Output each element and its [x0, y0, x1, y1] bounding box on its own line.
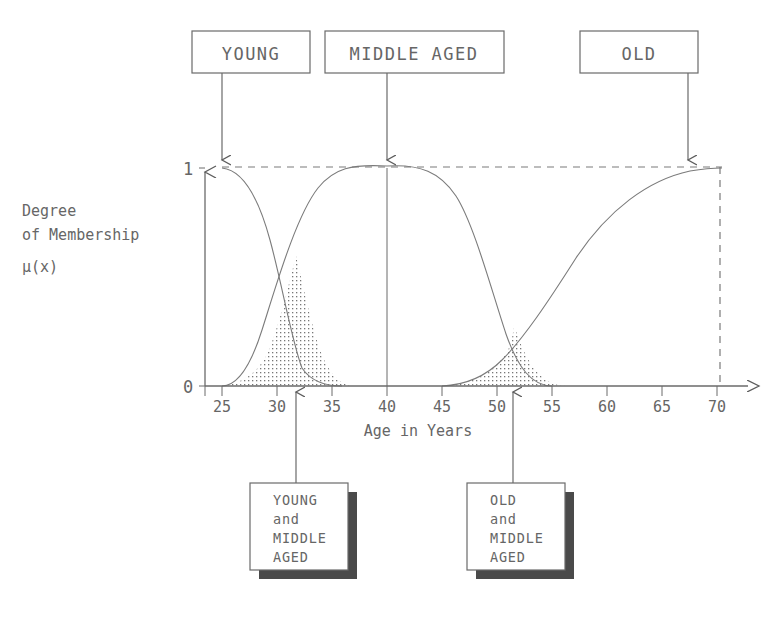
x-axis-title: Age in Years — [364, 422, 472, 440]
figure-canvas: 1 0 25 30 35 40 45 50 55 60 65 70 Age in… — [0, 0, 782, 617]
annotation-box-old[interactable]: OLD — [580, 31, 698, 73]
annotation-box-young-and-middle-aged[interactable]: YOUNG and MIDDLE AGED — [250, 483, 357, 579]
annotation-box-old-label: OLD — [621, 44, 656, 64]
y-axis-label-line1: Degree — [22, 202, 76, 220]
box-line-3: MIDDLE — [490, 530, 544, 546]
y-axis-label-mu: μ(x) — [22, 258, 58, 276]
x-tick-label-45: 45 — [433, 398, 451, 416]
x-axis-ticks — [205, 386, 717, 396]
box-line-4: AGED — [490, 549, 526, 565]
y-tick-label-1: 1 — [183, 159, 193, 179]
annotation-box-old-and-middle-aged[interactable]: OLD and MIDDLE AGED — [467, 483, 574, 579]
membership-function-chart: 1 0 25 30 35 40 45 50 55 60 65 70 Age in… — [0, 0, 782, 617]
x-tick-label-50: 50 — [488, 398, 506, 416]
x-tick-label-60: 60 — [598, 398, 616, 416]
x-tick-label-30: 30 — [268, 398, 286, 416]
shaded-region-young-and-middle-aged — [222, 256, 352, 386]
box-line-2: and — [490, 511, 517, 527]
box-line-1: YOUNG — [273, 492, 318, 508]
box-line-2: and — [273, 511, 300, 527]
x-tick-label-40: 40 — [378, 398, 396, 416]
curve-old — [442, 168, 722, 386]
annotation-box-young[interactable]: YOUNG — [192, 31, 310, 73]
x-tick-label-35: 35 — [323, 398, 341, 416]
x-tick-label-55: 55 — [543, 398, 561, 416]
box-line-1: OLD — [490, 492, 517, 508]
y-axis-label-line2: of Membership — [22, 226, 139, 244]
y-tick-label-0: 0 — [183, 377, 193, 397]
x-tick-label-25: 25 — [213, 398, 231, 416]
x-tick-label-65: 65 — [653, 398, 671, 416]
box-line-4: AGED — [273, 549, 309, 565]
annotation-box-young-label: YOUNG — [222, 44, 281, 64]
x-tick-label-70: 70 — [708, 398, 726, 416]
annotation-box-middle-aged-label: MIDDLE AGED — [349, 44, 478, 64]
shaded-region-old-and-middle-aged — [442, 325, 568, 386]
box-line-3: MIDDLE — [273, 530, 327, 546]
annotation-box-middle-aged[interactable]: MIDDLE AGED — [325, 31, 504, 73]
